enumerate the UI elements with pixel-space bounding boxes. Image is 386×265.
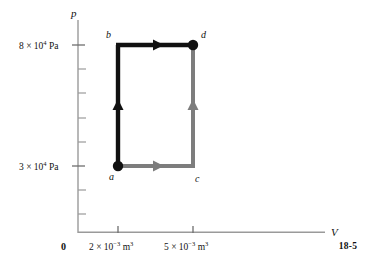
pv-diagram-figure: p V 0 8 × 104 Pa 3 × 104 Pa 2 × 10−3 m3 … [0,0,386,265]
y-axis-ticks [72,45,86,214]
x-tick-label-5e-3: 5 × 10−3 m3 [164,240,208,252]
origin-label: 0 [61,241,66,252]
point-marker-a [113,161,123,171]
axes-group: p V 0 [61,7,339,252]
y-tick-label-3e4: 3 × 104 Pa [19,160,59,172]
y-tick-label-8e4: 8 × 104 Pa [19,39,59,51]
arrow-b-to-d-right [153,40,164,51]
point-label-b: b [106,29,111,40]
point-label-c: c [195,173,200,184]
x-axis-label: V [331,226,339,238]
arrow-a-to-b-up [113,99,124,110]
x-tick-labels: 2 × 10−3 m3 5 × 10−3 m3 [89,240,208,252]
arrow-c-to-d-up [188,99,199,110]
point-label-d: d [201,29,207,40]
pv-diagram-canvas: p V 0 8 × 104 Pa 3 × 104 Pa 2 × 10−3 m3 … [0,0,386,265]
point-label-a: a [109,171,114,182]
cycle-paths-group [113,40,199,172]
arrow-a-to-c-right [153,161,164,172]
y-tick-labels: 8 × 104 Pa 3 × 104 Pa [19,39,59,172]
y-axis-label: p [70,7,77,19]
point-marker-d [188,40,198,50]
x-tick-label-2e-3: 2 × 10−3 m3 [89,240,133,252]
figure-number: 18-5 [339,241,358,251]
